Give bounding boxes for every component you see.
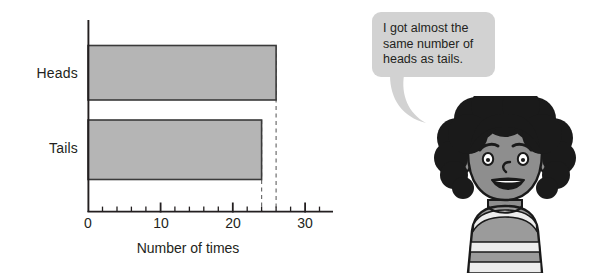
chart-plot-area <box>0 0 345 240</box>
illustration-canvas: Heads Tails <box>0 0 592 273</box>
x-tick-label-0: 0 <box>73 215 103 231</box>
student-illustration <box>418 96 592 273</box>
speech-bubble: I got almost the same number of heads as… <box>372 12 495 77</box>
pupil-left <box>486 158 490 162</box>
bar-heads <box>88 46 276 101</box>
speech-bubble-text: I got almost the same number of heads as… <box>383 21 485 68</box>
bar-chart: Heads Tails <box>0 0 345 273</box>
x-tick-label-10: 10 <box>146 215 176 231</box>
pupil-right <box>521 158 525 162</box>
x-axis-title: Number of times <box>58 240 318 256</box>
bar-tails <box>88 120 262 180</box>
x-tick-label-20: 20 <box>218 215 248 231</box>
x-tick-label-30: 30 <box>290 215 320 231</box>
